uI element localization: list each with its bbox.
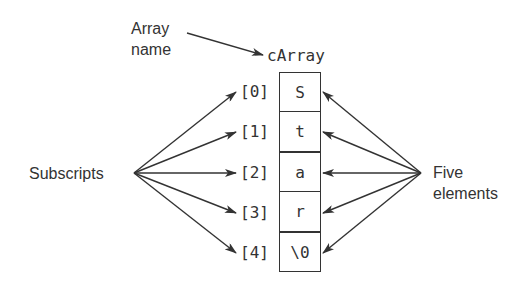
subscript-3: [3] [240,203,269,222]
array-name: cArray [267,46,325,65]
subscripts-label: Subscripts [29,164,104,183]
array-diagram: Array name cArray Subscripts Five elemen… [0,0,531,290]
elements-arrows [323,92,421,253]
array-cell-4: \0 [279,232,321,272]
elements-label-line1: Five [433,163,463,182]
subscript-1: [1] [240,122,269,141]
subscript-0: [0] [240,82,269,101]
subscript-2: [2] [240,163,269,182]
subscripts-arrows [134,92,236,253]
array-cell-2: a [279,152,321,192]
array-name-label-line2: name [131,40,171,59]
array-cell-0: S [279,72,321,112]
subscript-4: [4] [240,243,269,262]
array-name-arrow [187,33,263,55]
elements-label-line2: elements [433,184,498,203]
array-cell-1: t [279,112,321,152]
array-cell-3: r [279,192,321,232]
array-name-label-line1: Array [131,19,169,38]
